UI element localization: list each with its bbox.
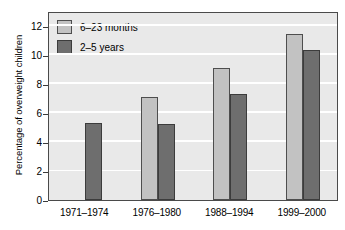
bar (286, 34, 303, 200)
bar (141, 97, 158, 200)
legend-item-6-23-months: 6–23 months (57, 18, 182, 36)
y-tick-mark (43, 27, 48, 28)
y-tick-label: 12 (20, 23, 42, 31)
bar-chart: Percentage of overweight children 024681… (0, 0, 345, 230)
legend-label: 2–5 years (80, 42, 124, 53)
y-tick-mark (43, 172, 48, 173)
gridline (49, 24, 337, 25)
x-tick-label: 1988–1994 (189, 207, 269, 218)
legend-swatch-light-gray (57, 20, 72, 34)
y-tick-label: 0 (20, 197, 42, 205)
y-tick-label: 6 (20, 110, 42, 118)
bar (303, 50, 320, 200)
y-tick-mark (43, 56, 48, 57)
y-axis-ticks: 024681012 (20, 0, 42, 230)
y-tick-mark (43, 85, 48, 86)
legend-label: 6–23 months (80, 22, 138, 33)
bar (85, 123, 102, 200)
y-tick-mark (43, 201, 48, 202)
x-tick-label: 1999–2000 (262, 207, 342, 218)
plot-area: 6–23 months 2–5 years (48, 12, 338, 201)
x-tick-label: 1976–1980 (117, 207, 197, 218)
bar (213, 68, 230, 200)
x-tick-label: 1971–1974 (44, 207, 124, 218)
legend-swatch-dark-gray (57, 40, 72, 54)
y-tick-label: 10 (20, 52, 42, 60)
y-tick-label: 4 (20, 139, 42, 147)
y-tick-mark (43, 143, 48, 144)
bar (158, 124, 175, 200)
y-tick-mark (43, 114, 48, 115)
y-tick-label: 2 (20, 168, 42, 176)
bar (230, 94, 247, 200)
y-tick-label: 8 (20, 81, 42, 89)
